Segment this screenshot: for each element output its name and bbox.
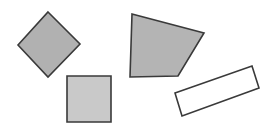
square-shape — [67, 76, 111, 122]
quadrilateral-shape — [130, 14, 204, 77]
diamond-shape — [18, 12, 80, 77]
shapes-svg — [0, 0, 271, 132]
diagram-canvas — [0, 0, 271, 132]
rectangle-shape — [175, 66, 259, 116]
